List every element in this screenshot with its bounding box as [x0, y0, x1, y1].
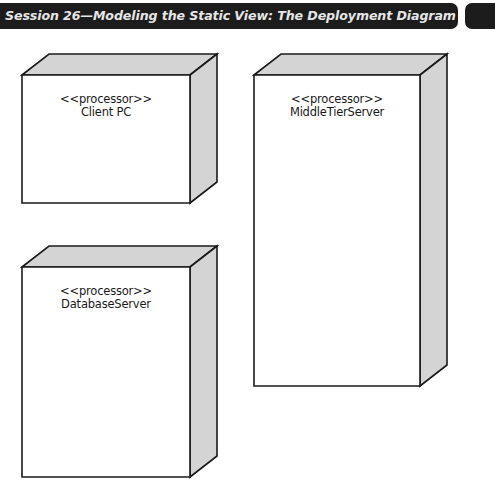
node-database-server: [22, 246, 217, 477]
node-label-middle-tier-server: <<processor>> MiddleTierServer: [254, 93, 420, 119]
node-top-face: [22, 54, 217, 75]
node-side-face: [190, 246, 217, 477]
node-label-client-pc: <<processor>> Client PC: [22, 93, 190, 119]
node-side-face: [190, 54, 217, 203]
node-front-face: [254, 75, 420, 386]
node-side-face: [420, 54, 447, 386]
node-top-face: [22, 246, 217, 267]
node-top-face: [254, 54, 447, 75]
node-label-database-server: <<processor>> DatabaseServer: [22, 285, 190, 311]
node-name: Client PC: [22, 106, 190, 119]
node-name: MiddleTierServer: [254, 106, 420, 119]
node-name: DatabaseServer: [22, 298, 190, 311]
node-client-pc: [22, 54, 217, 203]
